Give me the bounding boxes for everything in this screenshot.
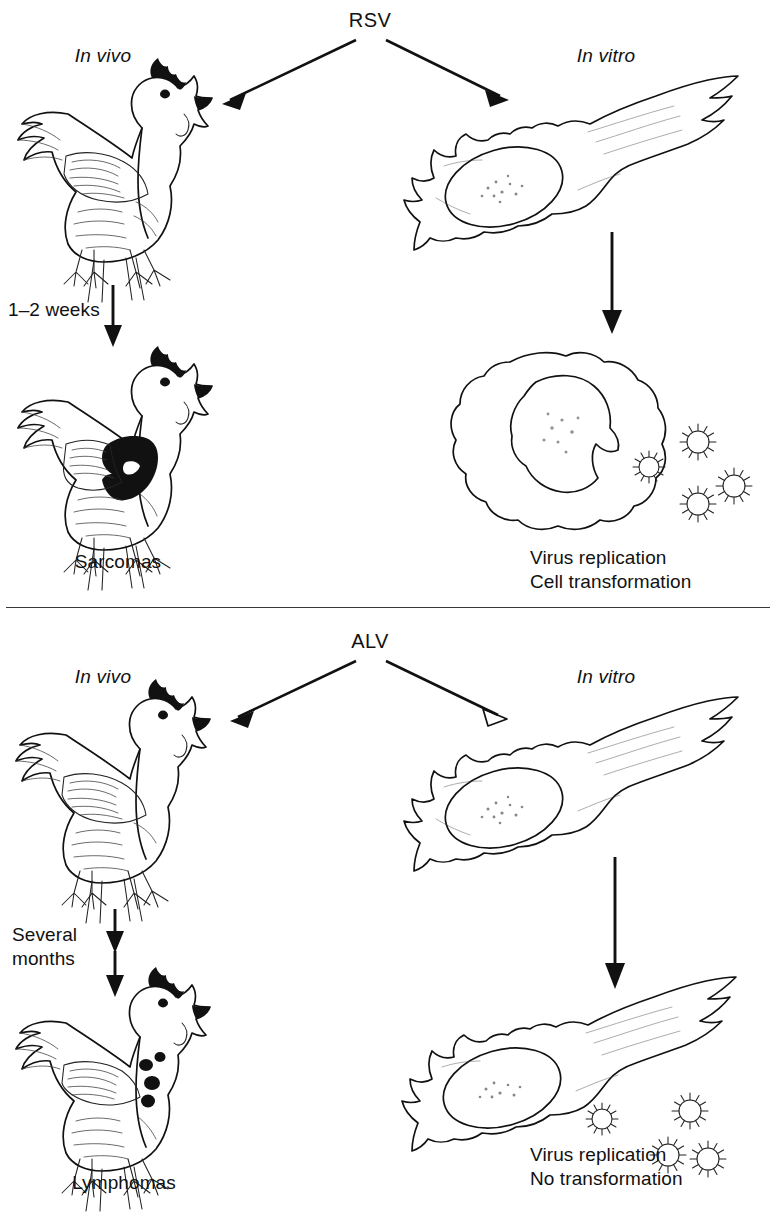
arrow-to-transformed-cell [0,232,776,342]
outcome-virus-replication-alv: Virus replication [530,1143,667,1166]
virion [672,1093,708,1129]
outcome-virus-replication-rsv: Virus replication [530,546,667,569]
virions-rsv [664,420,772,530]
panel-divider [6,607,770,608]
cell-nucleus [436,134,572,240]
arrow-rsv-to-in-vivo [222,40,356,110]
nucleus-chromatin [481,175,524,204]
outcome-sarcomas: Sarcomas [75,550,161,573]
nucleus-chromatin [479,1082,522,1099]
virion-budding [633,451,665,483]
virion [680,486,716,522]
arrow-alv-to-in-vivo [230,661,356,728]
outcome-cell-transformation: Cell transformation [530,570,691,593]
cell-nucleus [436,755,572,861]
outcome-no-transformation: No transformation [530,1167,683,1190]
panel-rsv: RSV In vivo In vitro [0,0,776,608]
cell-normal-fibroblast-alv [382,691,774,881]
virion-budding [586,1103,618,1135]
chicken-body [16,985,210,1171]
outcome-lymphomas: Lymphomas [72,1171,176,1194]
virion [690,1141,726,1177]
chicken-body [16,697,210,883]
virion [680,424,716,460]
virion [716,468,752,504]
nucleus-chromatin [543,413,580,454]
nucleus-chromatin [481,796,524,825]
panel-alv: ALV In vivo In vitro [0,609,776,1228]
large-transformed-nucleus [511,376,619,493]
cell-nucleus [434,1035,570,1141]
chicken-with-sarcoma [8,340,238,565]
